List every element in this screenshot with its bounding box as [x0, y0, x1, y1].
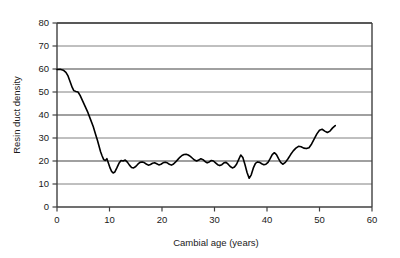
y-tick-label-10: 10	[38, 178, 49, 189]
y-axis-title: Resin duct density	[11, 76, 22, 154]
chart-background	[0, 0, 400, 258]
y-tick-label-80: 80	[38, 17, 49, 28]
y-axis-tick-labels: 01020304050607080	[38, 17, 49, 212]
x-tick-label-30: 30	[209, 214, 220, 225]
y-tick-label-50: 50	[38, 86, 49, 97]
chart-figure: 0102030405060 01020304050607080 Cambial …	[0, 0, 400, 258]
x-tick-label-20: 20	[157, 214, 168, 225]
y-tick-label-70: 70	[38, 40, 49, 51]
y-tick-label-40: 40	[38, 109, 49, 120]
x-tick-label-10: 10	[104, 214, 115, 225]
y-tick-label-20: 20	[38, 155, 49, 166]
x-tick-label-60: 60	[367, 214, 378, 225]
y-tick-label-60: 60	[38, 63, 49, 74]
x-tick-label-40: 40	[262, 214, 273, 225]
x-axis-title: Cambial age (years)	[173, 237, 259, 248]
resin-duct-density-line-chart: 0102030405060 01020304050607080 Cambial …	[0, 0, 400, 258]
y-tick-label-0: 0	[44, 201, 49, 212]
y-tick-label-30: 30	[38, 132, 49, 143]
x-tick-label-50: 50	[314, 214, 325, 225]
x-tick-label-0: 0	[54, 214, 59, 225]
